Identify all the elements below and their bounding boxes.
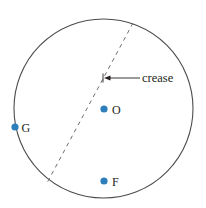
point-label-g: G	[22, 121, 31, 135]
point-label-f: F	[112, 175, 119, 189]
point-marker-g	[11, 123, 18, 130]
geometry-figure: crease OGF	[0, 0, 206, 208]
circle-crease-diagram: crease OGF	[0, 0, 206, 208]
point-marker-o	[100, 105, 107, 112]
point-label-o: O	[112, 103, 121, 117]
crease-label: crease	[142, 71, 174, 85]
point-marker-f	[100, 177, 107, 184]
figure-background	[0, 0, 206, 208]
